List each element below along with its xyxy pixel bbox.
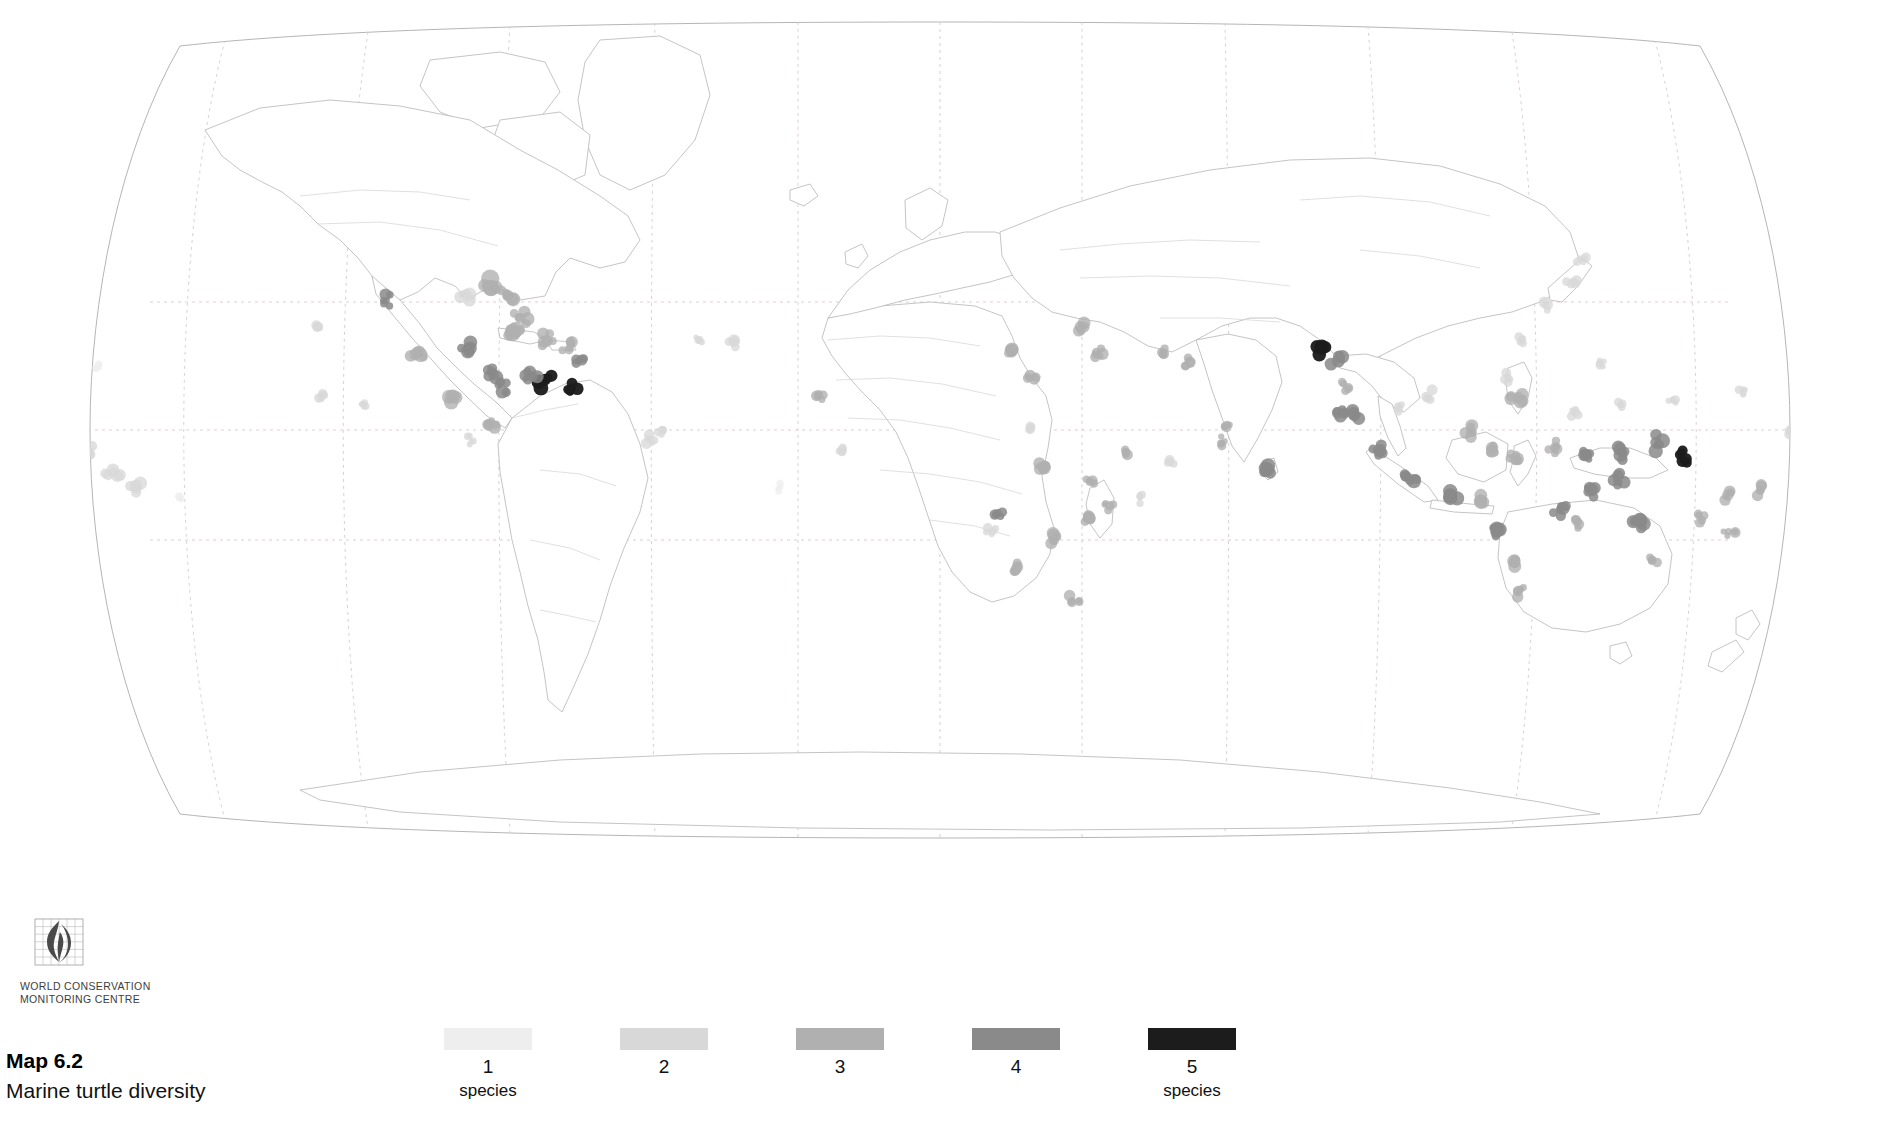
diversity-cell <box>1086 477 1093 484</box>
wcmc-logo-line2: MONITORING CENTRE <box>20 993 170 1006</box>
wcmc-logo: WORLD CONSERVATION MONITORING CENTRE <box>20 918 170 1005</box>
diversity-cell <box>1443 490 1457 504</box>
caption-label: Map 6.2 <box>6 1046 426 1076</box>
legend-swatch-1 <box>444 1028 532 1050</box>
diversity-cell <box>1015 563 1022 570</box>
diversity-cell <box>1507 555 1520 568</box>
diversity-cell <box>839 444 847 452</box>
diversity-cell <box>1136 493 1143 500</box>
diversity-cell <box>461 345 475 359</box>
diversity-cell <box>1039 466 1048 475</box>
diversity-cell <box>1787 430 1793 436</box>
diversity-cell <box>1159 352 1165 358</box>
diversity-cell <box>1630 516 1640 526</box>
diversity-cell <box>1027 427 1033 433</box>
diversity-cell <box>52 426 58 432</box>
diversity-cell <box>1376 440 1387 451</box>
diversity-cell <box>1612 470 1624 482</box>
diversity-cell <box>1047 527 1059 539</box>
diversity-cell <box>1068 598 1076 606</box>
diversity-cell <box>1650 429 1662 441</box>
diversity-cell <box>57 431 66 440</box>
diversity-region <box>49 424 61 435</box>
diversity-cell <box>566 344 574 352</box>
wcmc-logo-line1: WORLD CONSERVATION <box>20 980 170 993</box>
diversity-cell <box>1514 332 1523 341</box>
diversity-cell <box>1600 364 1606 370</box>
legend-entry-5: 5species <box>1102 1028 1282 1101</box>
diversity-cell <box>64 437 70 443</box>
diversity-cell <box>1335 351 1342 358</box>
diversity-cell <box>1486 446 1498 458</box>
diversity-cell <box>508 322 524 338</box>
diversity-cell <box>409 349 421 361</box>
diversity-cell <box>59 436 68 445</box>
diversity-cell <box>1589 482 1601 494</box>
diversity-cell <box>699 339 705 345</box>
diversity-region <box>1025 422 1035 435</box>
world-map <box>0 0 1879 860</box>
diversity-cell <box>1695 512 1702 519</box>
diversity-cell <box>1398 401 1405 408</box>
diversity-cell <box>1315 344 1325 354</box>
diversity-cell <box>1427 384 1438 395</box>
diversity-cell <box>179 498 184 503</box>
diversity-cell <box>1511 453 1524 466</box>
legend-swatch-4 <box>972 1028 1060 1050</box>
diversity-cell <box>484 419 493 428</box>
diversity-cell <box>1670 397 1676 403</box>
diversity-cell <box>58 434 67 443</box>
caption-title: Marine turtle diversity <box>6 1076 426 1106</box>
diversity-cell <box>1797 479 1804 486</box>
diversity-cell <box>1104 506 1112 514</box>
diversity-cell <box>1423 395 1431 403</box>
diversity-cell <box>659 426 667 434</box>
diversity-cell <box>61 435 69 443</box>
diversity-cell <box>510 309 519 318</box>
diversity-cell <box>1341 386 1350 395</box>
diversity-cell <box>49 428 56 435</box>
diversity-region <box>57 431 71 445</box>
diversity-cell <box>131 488 141 498</box>
diversity-cell <box>778 485 783 490</box>
diversity-cell <box>1097 345 1105 353</box>
diversity-cell <box>1793 475 1803 485</box>
diversity-region <box>1596 357 1607 369</box>
diversity-cell <box>86 450 96 460</box>
legend-swatch-fill <box>972 1028 1060 1050</box>
diversity-cell <box>362 403 369 410</box>
diversity-cell <box>565 386 574 395</box>
diversity-cell <box>80 444 91 455</box>
diversity-cell <box>1581 255 1588 262</box>
legend-swatch-fill <box>444 1028 532 1050</box>
diversity-cell <box>998 507 1008 517</box>
diversity-cell <box>728 334 740 346</box>
diversity-region <box>80 441 97 459</box>
legend-swatch-fill <box>1148 1028 1236 1050</box>
diversity-cell <box>1680 453 1692 465</box>
diversity-cell <box>1616 447 1626 457</box>
diversity-cell <box>549 337 557 345</box>
diversity-cell <box>492 421 500 429</box>
diversity-cell <box>1756 486 1765 495</box>
diversity-cell <box>1792 475 1797 480</box>
diversity-cell <box>559 346 567 354</box>
diversity-cell <box>1121 446 1130 455</box>
map-caption: Map 6.2 Marine turtle diversity <box>6 1046 426 1106</box>
diversity-cell <box>1562 277 1571 286</box>
legend-swatch-2 <box>620 1028 708 1050</box>
diversity-cell <box>1553 442 1560 449</box>
diversity-cell <box>1083 511 1096 524</box>
diversity-cell <box>469 439 474 444</box>
diversity-region <box>1486 441 1499 457</box>
diversity-cell <box>53 424 61 432</box>
diversity-cell <box>1165 455 1175 465</box>
diversity-cell <box>1222 438 1228 444</box>
diversity-cell <box>1571 279 1580 288</box>
diversity-cell <box>317 395 324 402</box>
diversity-cell <box>989 531 995 537</box>
diversity-cell <box>1347 407 1359 419</box>
diversity-cell <box>1465 431 1477 443</box>
legend-swatch-5 <box>1148 1028 1236 1050</box>
diversity-cell <box>1501 368 1511 378</box>
